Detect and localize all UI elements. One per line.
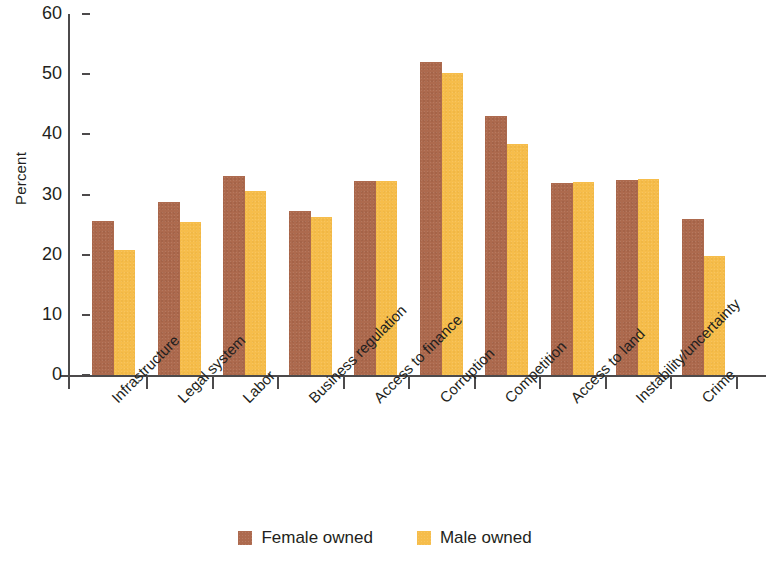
- bar-group: [289, 14, 332, 375]
- bar-male-owned: [114, 250, 135, 375]
- y-tick-label: 30: [28, 185, 62, 203]
- x-tick-mark: [68, 377, 70, 389]
- bar-group: [92, 14, 135, 375]
- legend-item: Male owned: [417, 528, 532, 548]
- y-tick-label: 40: [28, 124, 62, 142]
- bar-female-owned: [92, 221, 114, 375]
- legend-label: Male owned: [440, 528, 532, 548]
- bar-group: [485, 14, 528, 375]
- bar-chart: Percent 0102030405060 InfrastructureLega…: [0, 0, 770, 564]
- plot-area: [70, 14, 766, 375]
- y-tick-label: 20: [28, 245, 62, 263]
- bar-male-owned: [573, 182, 594, 375]
- bar-male-owned: [245, 191, 266, 375]
- bar-female-owned: [485, 116, 507, 375]
- y-tick-label: 0: [28, 365, 62, 383]
- chart-legend: Female ownedMale owned: [0, 528, 770, 548]
- legend-swatch-icon: [417, 531, 431, 545]
- bar-group: [223, 14, 266, 375]
- y-tick-label: 60: [28, 4, 62, 22]
- bar-group: [158, 14, 201, 375]
- bar-male-owned: [376, 181, 397, 375]
- bar-male-owned: [638, 179, 659, 375]
- bar-group: [616, 14, 659, 375]
- legend-swatch-icon: [238, 531, 252, 545]
- bar-female-owned: [289, 211, 311, 375]
- bar-male-owned: [507, 144, 528, 375]
- y-tick-label: 10: [28, 305, 62, 323]
- bar-male-owned: [311, 217, 332, 375]
- bar-group: [551, 14, 594, 375]
- bar-male-owned: [180, 222, 201, 375]
- legend-item: Female owned: [238, 528, 373, 548]
- y-axis-ticks: 0102030405060: [20, 0, 62, 564]
- y-tick-label: 50: [28, 64, 62, 82]
- legend-label: Female owned: [261, 528, 373, 548]
